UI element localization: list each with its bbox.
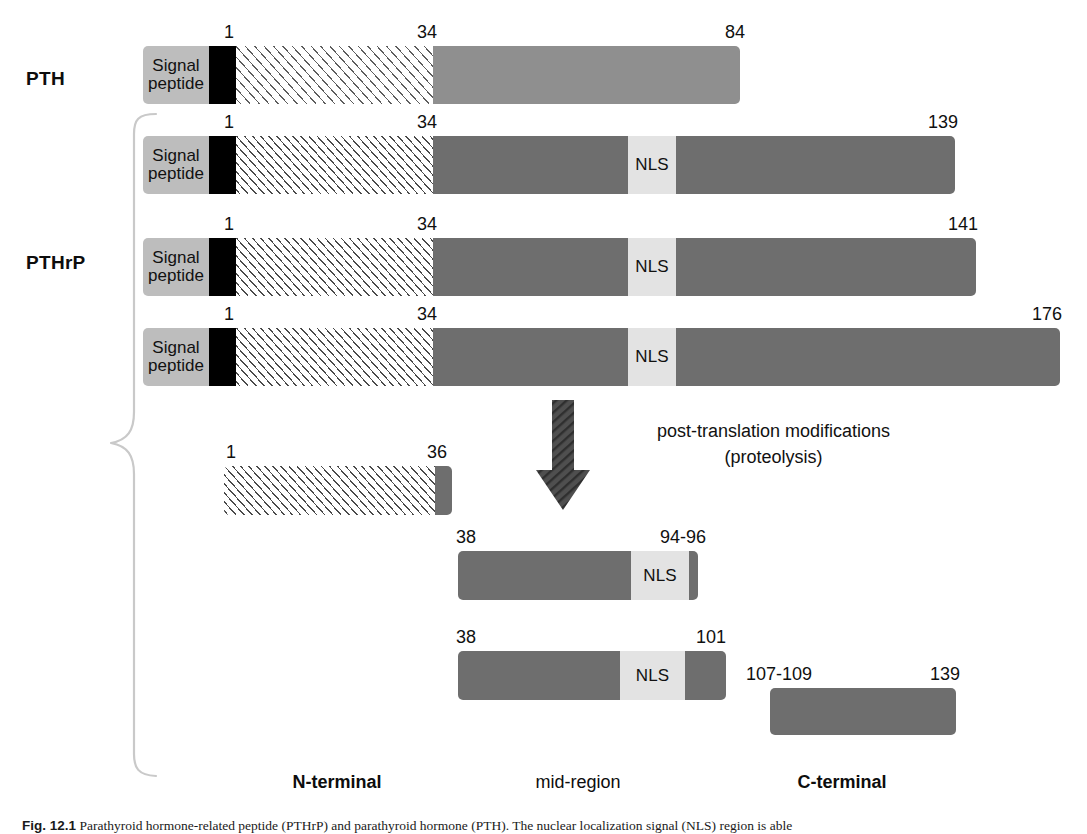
pthrp-176-end-number: 176 <box>1032 304 1062 325</box>
mid-region-block <box>458 551 631 600</box>
signal-peptide-block: Signal peptide <box>143 46 209 104</box>
bar-fragment-n-terminal <box>224 466 452 515</box>
signal-peptide-block: Signal peptide <box>143 328 209 386</box>
nls-block: NLS <box>628 328 676 386</box>
signal-peptide-label-line1: Signal <box>152 147 199 165</box>
nls-label: NLS <box>635 155 669 175</box>
post-translation-caption: post-translation modifications (proteoly… <box>657 418 890 470</box>
group-label-pth: PTH <box>26 68 65 90</box>
region-label-mid-region: mid-region <box>535 772 620 793</box>
bar-pthrp-176: Signal peptide NLS <box>143 328 1060 386</box>
fragment-mid-94-96-start-number: 38 <box>456 527 476 548</box>
nls-block: NLS <box>628 238 676 296</box>
region-label-n-terminal: N-terminal <box>292 772 381 793</box>
fragment-end-cap-block <box>685 651 726 700</box>
figure-caption-text: Parathyroid hormone-related peptide (PTH… <box>79 818 792 833</box>
pro-sequence-block <box>209 46 236 104</box>
figure-canvas: PTH PTHrP 1 34 84 Signal peptide 1 34 13… <box>0 0 1087 834</box>
pth-precursor-start-number: 1 <box>224 22 234 43</box>
fragment-end-cap-block <box>435 466 452 515</box>
fragment-n-terminal-start-number: 1 <box>226 442 236 463</box>
pthrp-139-mid-number: 34 <box>417 112 437 133</box>
signal-peptide-label-line1: Signal <box>152 339 199 357</box>
pthrp-176-start-number: 1 <box>224 304 234 325</box>
bar-pth-precursor: Signal peptide <box>143 46 740 104</box>
mid-region-block <box>433 328 628 386</box>
signal-peptide-label-line1: Signal <box>152 57 199 75</box>
fragment-n-terminal-end-number: 36 <box>427 442 447 463</box>
signal-peptide-label-line2: peptide <box>148 75 204 93</box>
nls-label: NLS <box>636 666 670 686</box>
n-terminal-hatched-block <box>236 136 433 194</box>
nls-block: NLS <box>631 551 689 600</box>
bar-fragment-mid-101: NLS <box>458 651 726 700</box>
n-terminal-hatched-block <box>224 466 435 515</box>
pro-sequence-block <box>209 238 236 296</box>
fragment-mid-101-start-number: 38 <box>456 627 476 648</box>
nls-label: NLS <box>643 566 677 586</box>
pro-sequence-block <box>209 328 236 386</box>
ptm-line-2: (proteolysis) <box>657 444 890 470</box>
c-terminal-block <box>770 688 956 735</box>
pro-sequence-block <box>209 136 236 194</box>
pthrp-141-start-number: 1 <box>224 214 234 235</box>
fragment-mid-101-end-number: 101 <box>696 627 726 648</box>
signal-peptide-block: Signal peptide <box>143 238 209 296</box>
nls-block: NLS <box>620 651 685 700</box>
n-terminal-hatched-block <box>236 328 433 386</box>
figure-caption-number: Fig. 12.1 <box>22 818 76 833</box>
ptm-line-1: post-translation modifications <box>657 418 890 444</box>
signal-peptide-label-line1: Signal <box>152 249 199 267</box>
signal-peptide-label-line2: peptide <box>148 165 204 183</box>
c-terminal-block <box>676 328 1060 386</box>
signal-peptide-label-line2: peptide <box>148 267 204 285</box>
bar-pthrp-141: Signal peptide NLS <box>143 238 976 296</box>
c-terminal-block <box>676 238 976 296</box>
c-terminal-block <box>676 136 955 194</box>
pthrp-176-mid-number: 34 <box>417 304 437 325</box>
n-terminal-hatched-block <box>236 46 433 104</box>
signal-peptide-label-line2: peptide <box>148 357 204 375</box>
region-label-c-terminal: C-terminal <box>797 772 886 793</box>
bar-fragment-c-terminal <box>770 688 956 735</box>
pthrp-139-start-number: 1 <box>224 112 234 133</box>
bar-fragment-mid-94-96: NLS <box>458 551 698 600</box>
figure-caption: Fig. 12.1 Parathyroid hormone-related pe… <box>22 816 1072 834</box>
fragment-end-cap-block <box>689 551 698 600</box>
bar-pthrp-139: Signal peptide NLS <box>143 136 955 194</box>
pthrp-brace <box>98 112 158 778</box>
group-label-pthrp: PTHrP <box>26 252 86 274</box>
fragment-c-terminal-start-number: 107-109 <box>746 664 812 685</box>
nls-label: NLS <box>635 257 669 277</box>
pth-precursor-mid-number: 34 <box>417 22 437 43</box>
pth-precursor-end-number: 84 <box>725 22 745 43</box>
pth-mature-block <box>433 46 740 104</box>
mid-region-block <box>458 651 620 700</box>
mid-region-block <box>433 238 628 296</box>
proteolysis-arrow-icon <box>534 400 592 512</box>
signal-peptide-block: Signal peptide <box>143 136 209 194</box>
n-terminal-hatched-block <box>236 238 433 296</box>
fragment-c-terminal-end-number: 139 <box>930 664 960 685</box>
nls-label: NLS <box>635 347 669 367</box>
pthrp-139-end-number: 139 <box>928 112 958 133</box>
nls-block: NLS <box>628 136 676 194</box>
pthrp-141-end-number: 141 <box>948 214 978 235</box>
mid-region-block <box>433 136 628 194</box>
pthrp-141-mid-number: 34 <box>417 214 437 235</box>
fragment-mid-94-96-end-number: 94-96 <box>660 527 706 548</box>
